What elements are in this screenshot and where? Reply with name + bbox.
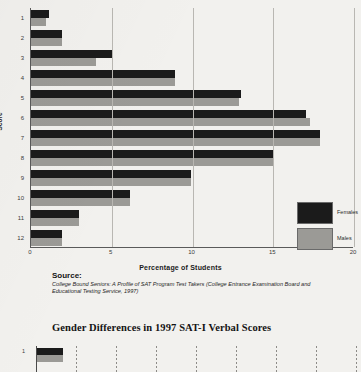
y-tick-12: 12	[17, 235, 24, 241]
bar-females-score-8	[31, 150, 273, 158]
legend-item-males: Males	[297, 228, 361, 250]
bar-males-score-1	[31, 18, 46, 26]
bar-females-score-3	[31, 50, 112, 58]
legend-item-females: Females	[297, 202, 361, 224]
bar-males-score-7	[31, 138, 320, 146]
bar-males-score-12	[31, 238, 62, 246]
bar-females-score-2	[31, 30, 62, 38]
y-tick-11: 11	[18, 215, 24, 221]
y-tick-4: 4	[21, 75, 24, 81]
bar-females-score-7	[31, 130, 320, 138]
gridline-15	[273, 8, 274, 247]
next-figure-bar-males	[37, 355, 63, 362]
source-heading: Source:	[52, 271, 352, 280]
next-figure-gridline-8	[356, 346, 357, 372]
sat-math-scores-chart: Score 123456789101112 05101520 Percentag…	[0, 0, 361, 258]
y-tick-9: 9	[21, 175, 24, 181]
next-figure-gridline-7	[316, 346, 317, 372]
y-tick-5: 5	[21, 95, 24, 101]
bar-females-score-10	[31, 190, 130, 198]
y-tick-6: 6	[21, 115, 24, 121]
next-figure-gridline-1	[76, 346, 77, 372]
bar-males-score-2	[31, 38, 62, 46]
x-tick-5: 5	[109, 249, 112, 255]
next-figure-bar-females	[37, 348, 63, 355]
y-tick-7: 7	[21, 135, 24, 141]
bar-males-score-3	[31, 58, 96, 66]
bar-males-score-5	[31, 98, 239, 106]
bar-females-score-11	[31, 210, 79, 218]
next-figure-title: Gender Differences in 1997 SAT-I Verbal …	[52, 322, 271, 333]
next-figure-gridline-3	[156, 346, 157, 372]
source-citation: College Bound Seniors: A Profile of SAT …	[52, 281, 312, 295]
next-figure-partial: Gender Differences in 1997 SAT-I Verbal …	[0, 322, 361, 372]
bar-females-score-6	[31, 110, 306, 118]
bar-males-score-6	[31, 118, 310, 126]
bar-males-score-4	[31, 78, 175, 86]
legend-swatch-females	[297, 202, 333, 224]
x-tick-0: 0	[28, 249, 31, 255]
y-tick-3: 3	[21, 55, 24, 61]
gridline-10	[193, 8, 194, 247]
legend-swatch-males	[297, 228, 333, 250]
next-figure-gridline-2	[116, 346, 117, 372]
y-tick-1: 1	[21, 15, 24, 21]
figure-page: Score 123456789101112 05101520 Percentag…	[0, 0, 361, 372]
bar-females-score-12	[31, 230, 62, 238]
next-figure-gridline-4	[196, 346, 197, 372]
y-tick-10: 10	[17, 195, 24, 201]
bar-males-score-11	[31, 218, 79, 226]
next-figure-gridline-6	[276, 346, 277, 372]
y-tick-8: 8	[21, 155, 24, 161]
bar-males-score-8	[31, 158, 273, 166]
legend-label-females: Females	[337, 209, 358, 215]
next-figure-gridline-5	[236, 346, 237, 372]
source-block: Source: College Bound Seniors: A Profile…	[52, 271, 352, 295]
x-tick-15: 15	[269, 249, 276, 255]
bar-females-score-1	[31, 10, 49, 18]
x-axis-title: Percentage of Students	[0, 264, 361, 271]
y-axis-tick-labels: 123456789101112	[0, 8, 28, 248]
bar-females-score-5	[31, 90, 241, 98]
gridline-5	[112, 8, 113, 247]
legend-label-males: Males	[337, 235, 352, 241]
bar-females-score-4	[31, 70, 175, 78]
next-figure-plot	[36, 346, 361, 372]
next-figure-first-tick: 1	[22, 348, 25, 354]
x-tick-10: 10	[188, 249, 195, 255]
bar-males-score-10	[31, 198, 130, 206]
y-tick-2: 2	[21, 35, 24, 41]
chart-legend: Females Males	[297, 202, 361, 254]
